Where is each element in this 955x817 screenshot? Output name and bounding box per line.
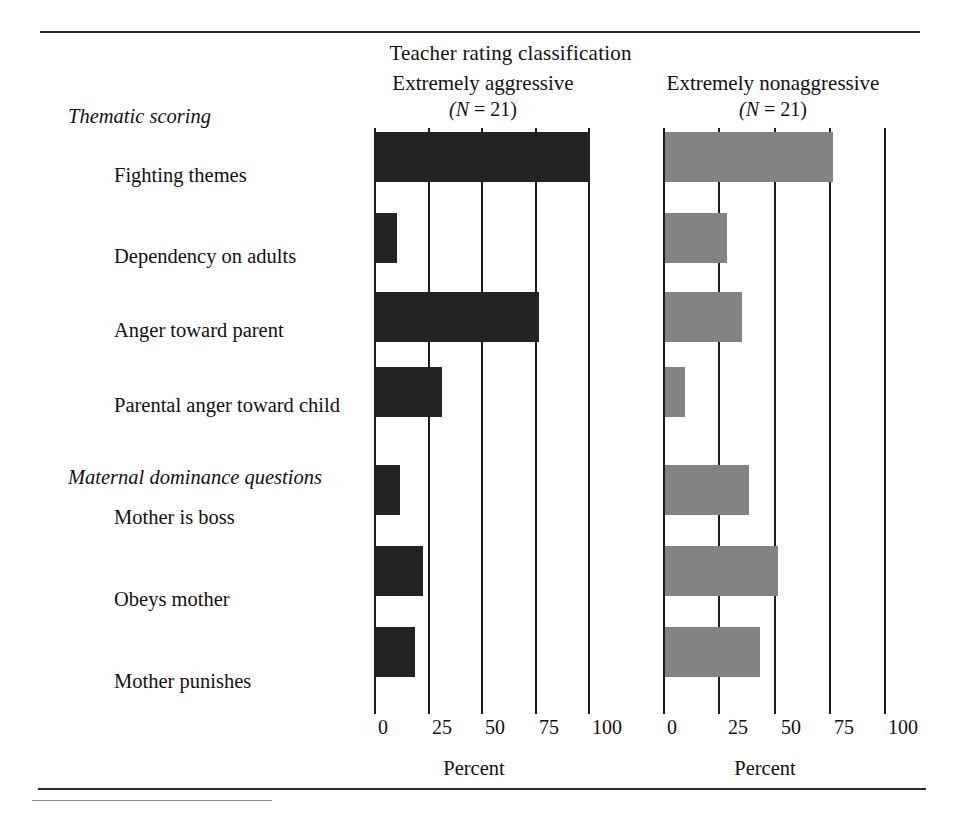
category-label-obeys-mother: Obeys mother: [114, 588, 230, 611]
bar-nonaggressive-4: [665, 465, 749, 515]
column-header-nonaggressive-n: (N = 21): [628, 97, 918, 123]
super-header-text: Teacher rating classification: [389, 41, 631, 66]
category-label-mother-is-boss: Mother is boss: [114, 506, 235, 529]
tick-label-left-50: 50: [485, 716, 505, 739]
gridline-aggressive-50: [481, 128, 483, 714]
tick-label-left-100: 100: [592, 716, 622, 739]
tick-label-right-75: 75: [834, 716, 854, 739]
bar-aggressive-6: [376, 627, 415, 677]
tick-label-left-0: 0: [378, 716, 388, 739]
category-label-dependency-on-adults: Dependency on adults: [114, 245, 296, 268]
gridline-aggressive-100: [588, 128, 590, 714]
bar-aggressive-0: [376, 132, 590, 182]
bar-nonaggressive-2: [665, 292, 742, 342]
gridline-nonaggressive-75: [829, 128, 831, 714]
bar-aggressive-1: [376, 213, 397, 263]
category-label-mother-punishes: Mother punishes: [114, 670, 251, 693]
bar-aggressive-5: [376, 546, 423, 596]
category-label-anger-toward-parent: Anger toward parent: [114, 319, 284, 342]
column-header-nonaggressive: Extremely nonaggressive (N = 21): [628, 70, 918, 122]
group-label-thematic: Thematic scoring: [68, 105, 211, 128]
bar-nonaggressive-0: [665, 132, 833, 182]
tick-label-right-0: 0: [667, 716, 677, 739]
bar-aggressive-2: [376, 292, 539, 342]
bar-nonaggressive-6: [665, 627, 760, 677]
category-label-fighting-themes: Fighting themes: [114, 164, 247, 187]
gridline-nonaggressive-50: [774, 128, 776, 714]
bar-aggressive-3: [376, 367, 442, 417]
bar-aggressive-4: [376, 465, 400, 515]
bar-nonaggressive-3: [665, 367, 685, 417]
plot-panel-aggressive: [374, 128, 588, 714]
figure-bottom-rule: [38, 788, 926, 790]
figure-super-header: Teacher rating classification: [0, 41, 955, 66]
plot-panel-nonaggressive: [663, 128, 884, 714]
column-header-aggressive-n: (N = 21): [338, 97, 628, 123]
figure-top-rule: [40, 31, 920, 33]
bar-nonaggressive-1: [665, 213, 727, 263]
bar-nonaggressive-5: [665, 546, 778, 596]
axis-title-right: Percent: [665, 757, 865, 780]
column-header-nonaggressive-label: Extremely nonaggressive: [628, 70, 918, 97]
tick-label-right-25: 25: [728, 716, 748, 739]
caption-rule: [32, 800, 272, 801]
axis-title-left: Percent: [374, 757, 574, 780]
category-label-parental-anger: Parental anger toward child: [114, 394, 340, 417]
tick-label-right-50: 50: [781, 716, 801, 739]
gridline-aggressive-75: [535, 128, 537, 714]
tick-label-left-75: 75: [539, 716, 559, 739]
column-header-aggressive-label: Extremely aggressive: [338, 70, 628, 97]
gridline-aggressive-25: [428, 128, 430, 714]
tick-label-right-100: 100: [888, 716, 918, 739]
column-header-aggressive: Extremely aggressive (N = 21): [338, 70, 628, 122]
tick-label-left-25: 25: [432, 716, 452, 739]
gridline-nonaggressive-100: [884, 128, 886, 714]
group-label-maternal: Maternal dominance questions: [68, 466, 322, 489]
